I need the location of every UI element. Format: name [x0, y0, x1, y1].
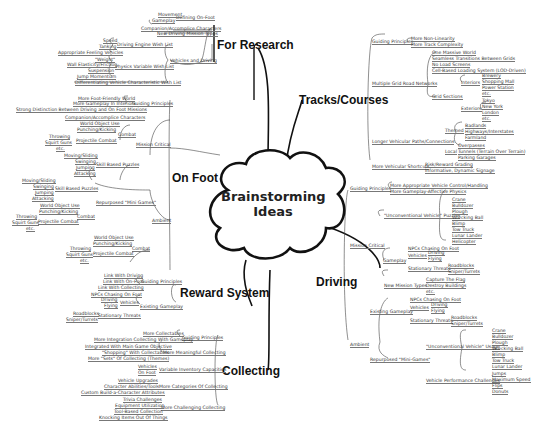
branch-collecting[interactable]: Collecting: [222, 364, 280, 378]
node[interactable]: On Foot: [138, 370, 156, 376]
node[interactable]: Punching/Kicking: [39, 209, 78, 215]
node[interactable]: New Driving Mission Types: [157, 31, 218, 37]
node[interactable]: Interiors: [461, 80, 480, 86]
center-title-line2: Ideas: [221, 204, 325, 219]
node[interactable]: Strong Distinction Between Driving and O…: [16, 107, 147, 113]
node[interactable]: Driving Engine Wish List: [117, 42, 173, 48]
node[interactable]: Existing Gameplay: [140, 304, 183, 310]
node[interactable]: Guiding Principles: [350, 186, 391, 192]
node[interactable]: New Mission Types: [384, 283, 427, 289]
node[interactable]: Custom Build-a-Character Attributes: [81, 390, 165, 396]
node[interactable]: Mission Critical: [350, 243, 385, 249]
node[interactable]: etc.: [80, 258, 89, 264]
node[interactable]: Combat: [132, 246, 150, 252]
node[interactable]: Ambient: [350, 342, 369, 348]
node[interactable]: More Track Complexity: [411, 42, 463, 48]
node[interactable]: etc.: [26, 226, 35, 232]
mind-map-canvas: Brainstorming Ideas For Research Tracks/…: [0, 0, 536, 427]
node[interactable]: Themed: [445, 128, 464, 134]
branch-driving[interactable]: Driving: [316, 275, 357, 289]
node[interactable]: Projectile Combat: [76, 138, 117, 144]
node[interactable]: Punching/Kicking: [77, 127, 116, 133]
node[interactable]: Guiding Principles: [372, 39, 413, 45]
center-title-line1: Brainstorming: [221, 189, 325, 204]
node[interactable]: Gameplay: [152, 18, 175, 24]
node[interactable]: Projectile Combat: [38, 219, 79, 225]
node[interactable]: Attacking: [74, 171, 96, 177]
branch-for-research[interactable]: For Research: [217, 38, 294, 52]
node[interactable]: "Unconventional Vehicle" Usage: [426, 344, 500, 350]
node[interactable]: Local: [445, 149, 457, 155]
node[interactable]: More Categories Of Collecting: [159, 384, 228, 390]
node[interactable]: Ambient: [152, 218, 171, 224]
node[interactable]: Vehicle Performance Challenges: [426, 378, 500, 384]
node[interactable]: Farmland: [465, 135, 486, 141]
node[interactable]: Appropriate Feeling Vehicles: [58, 50, 123, 56]
node[interactable]: etc.: [482, 91, 491, 97]
node[interactable]: Exteriors: [461, 106, 482, 112]
central-topic: Brainstorming Ideas: [221, 189, 325, 219]
node[interactable]: Existing Gameplay: [370, 309, 413, 315]
node[interactable]: Sniper/Turrets: [451, 321, 483, 327]
node[interactable]: More Integration Collecting With Gamepla…: [94, 337, 193, 343]
node[interactable]: Differentiating Vehicle Characteristic W…: [75, 80, 181, 86]
node[interactable]: Flying: [431, 308, 445, 314]
node[interactable]: Link With Collecting: [98, 285, 144, 291]
branch-reward-system[interactable]: Reward System: [180, 286, 269, 300]
node[interactable]: Donuts: [492, 389, 508, 395]
node[interactable]: Stationary Threats: [98, 313, 141, 319]
node[interactable]: Repurposed "Mini-Games": [370, 357, 430, 363]
node[interactable]: Repurposed "Mini Games": [96, 200, 156, 206]
node[interactable]: Knocking Items Out Of Things: [99, 415, 168, 421]
node[interactable]: Mission Critical: [136, 142, 171, 148]
node[interactable]: Flying: [428, 256, 442, 262]
node[interactable]: Attacking: [32, 196, 54, 202]
node[interactable]: Skill Based Puzzles: [55, 186, 98, 192]
node[interactable]: Gameplay: [383, 258, 406, 264]
node[interactable]: Combat: [118, 132, 136, 138]
node[interactable]: Helicopter: [452, 239, 476, 245]
node[interactable]: Sniper/Turrets: [66, 317, 98, 323]
node[interactable]: etc.: [482, 116, 491, 122]
node[interactable]: Parking Garages: [458, 155, 496, 161]
node[interactable]: Flying: [104, 303, 118, 309]
node[interactable]: Skill Based Puzzles: [96, 162, 139, 168]
node[interactable]: Physics Variable Wish List: [115, 64, 174, 70]
node[interactable]: Combat: [77, 214, 95, 220]
branch-on-foot[interactable]: On Foot: [172, 171, 218, 185]
node[interactable]: etc.: [426, 289, 435, 295]
node[interactable]: More Meaningful Collecting: [163, 350, 226, 356]
node[interactable]: etc.: [56, 146, 65, 152]
node[interactable]: Vehicles: [120, 300, 139, 306]
node[interactable]: Vehicles: [410, 305, 429, 311]
node[interactable]: "Unconventional Vehicle" Puzzles: [384, 213, 460, 219]
node[interactable]: Vehicles and Driving: [170, 58, 217, 64]
node[interactable]: Vehicles: [408, 253, 427, 259]
node[interactable]: Punching/Kicking: [93, 241, 132, 247]
node[interactable]: Longer Vehicular Paths/Connections: [372, 139, 454, 145]
node[interactable]: Stationary Threats: [408, 266, 451, 272]
node[interactable]: More Vehicular Shortcuts: [372, 164, 429, 170]
node[interactable]: More "Sets" Of Collecting (Themes): [88, 356, 169, 362]
branch-tracks-courses[interactable]: Tracks/Courses: [299, 93, 388, 107]
node[interactable]: Grid Sections: [432, 94, 463, 100]
node[interactable]: More Challenging Collecting: [161, 405, 225, 411]
node[interactable]: Lunar Lander: [492, 364, 522, 370]
node[interactable]: Informative, Dynamic Signage: [425, 168, 495, 174]
node[interactable]: Cell-Based Loading System (LOD-Driven): [432, 68, 526, 74]
node[interactable]: More Gameplay-Affective Physics: [390, 189, 466, 195]
node[interactable]: Stationary Threats: [410, 318, 453, 324]
node[interactable]: Sniper/Turrets: [448, 269, 480, 275]
node[interactable]: Projectile Combat: [93, 251, 134, 257]
node[interactable]: Multiple Grid Road Networks: [372, 81, 437, 87]
node[interactable]: Variable Inventory Capacities: [159, 367, 226, 373]
node[interactable]: Guiding Principles: [141, 279, 182, 285]
